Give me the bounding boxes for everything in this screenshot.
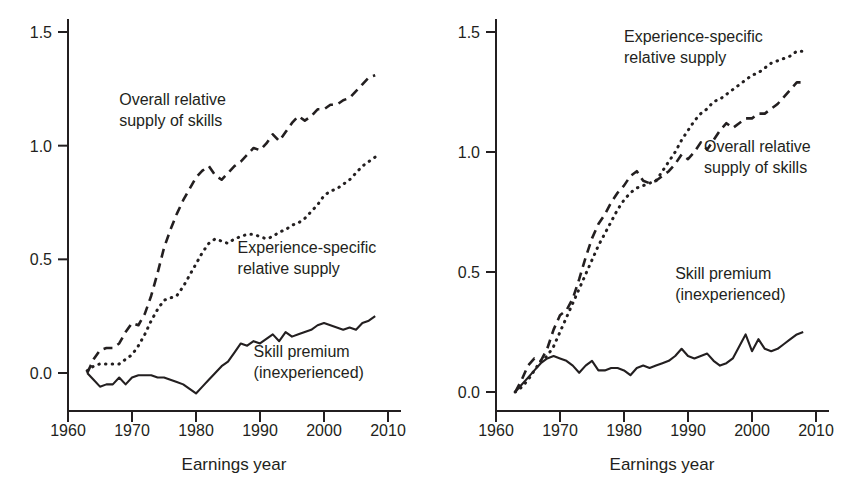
annotation-skill-premium-line-1: Skill premium bbox=[675, 265, 771, 282]
right-panel: 0.00.51.01.5196019701980199020002010Earn… bbox=[428, 0, 856, 489]
x-tick-label: 2000 bbox=[306, 422, 342, 439]
y-tick-label: 0.5 bbox=[458, 264, 480, 281]
annotation-overall-relative-supply: Overall relativesupply of skills bbox=[119, 91, 226, 129]
x-tick-label: 1960 bbox=[478, 422, 514, 439]
annotation-experience-specific-supply-line-2: relative supply bbox=[624, 49, 726, 66]
figure-container: 0.00.51.01.5196019701980199020002010Earn… bbox=[0, 0, 856, 489]
annotation-overall-relative-supply-line-1: Overall relative bbox=[119, 91, 226, 108]
x-tick-label: 2010 bbox=[798, 422, 834, 439]
x-tick-label: 2010 bbox=[370, 422, 406, 439]
left-panel: 0.00.51.01.5196019701980199020002010Earn… bbox=[0, 0, 428, 489]
x-axis-title: Earnings year bbox=[610, 455, 715, 474]
y-tick-label: 1.0 bbox=[458, 144, 480, 161]
annotation-skill-premium: Skill premium(inexperienced) bbox=[675, 265, 785, 303]
annotation-skill-premium-line-1: Skill premium bbox=[254, 343, 350, 360]
annotation-experience-specific-supply: Experience-specificrelative supply bbox=[238, 239, 377, 277]
y-tick-label: 1.5 bbox=[458, 24, 480, 41]
x-axis-title: Earnings year bbox=[182, 455, 287, 474]
x-tick-label: 2000 bbox=[734, 422, 770, 439]
x-tick-label: 1990 bbox=[670, 422, 706, 439]
x-tick-label: 1960 bbox=[50, 422, 86, 439]
annotation-experience-specific-supply-line-1: Experience-specific bbox=[624, 28, 763, 45]
right-panel-plot: 0.00.51.01.5196019701980199020002010Earn… bbox=[428, 0, 856, 489]
left-panel-plot: 0.00.51.01.5196019701980199020002010Earn… bbox=[0, 0, 428, 489]
x-tick-label: 1990 bbox=[242, 422, 278, 439]
x-tick-label: 1980 bbox=[178, 422, 214, 439]
y-tick-label: 0.0 bbox=[458, 384, 480, 401]
x-tick-label: 1970 bbox=[542, 422, 578, 439]
annotation-experience-specific-supply: Experience-specificrelative supply bbox=[624, 28, 763, 66]
annotation-overall-relative-supply-line-2: supply of skills bbox=[119, 112, 222, 129]
annotation-skill-premium-line-2: (inexperienced) bbox=[675, 286, 785, 303]
y-tick-label: 0.5 bbox=[30, 251, 52, 268]
annotation-overall-relative-supply-line-1: Overall relative bbox=[704, 138, 811, 155]
series-line-overall-relative-supply-of-skills bbox=[515, 82, 803, 392]
annotation-overall-relative-supply: Overall relativesupply of skills bbox=[704, 138, 811, 176]
annotation-overall-relative-supply-line-2: supply of skills bbox=[704, 159, 807, 176]
y-tick-label: 1.0 bbox=[30, 138, 52, 155]
x-tick-label: 1980 bbox=[606, 422, 642, 439]
annotation-experience-specific-supply-line-1: Experience-specific bbox=[238, 239, 377, 256]
y-tick-label: 1.5 bbox=[30, 24, 52, 41]
y-tick-label: 0.0 bbox=[30, 365, 52, 382]
annotation-skill-premium-line-2: (inexperienced) bbox=[254, 364, 364, 381]
annotation-experience-specific-supply-line-2: relative supply bbox=[238, 260, 340, 277]
x-tick-label: 1970 bbox=[114, 422, 150, 439]
series-line-skill-premium-inexperienced bbox=[515, 332, 803, 392]
annotation-skill-premium: Skill premium(inexperienced) bbox=[254, 343, 364, 381]
